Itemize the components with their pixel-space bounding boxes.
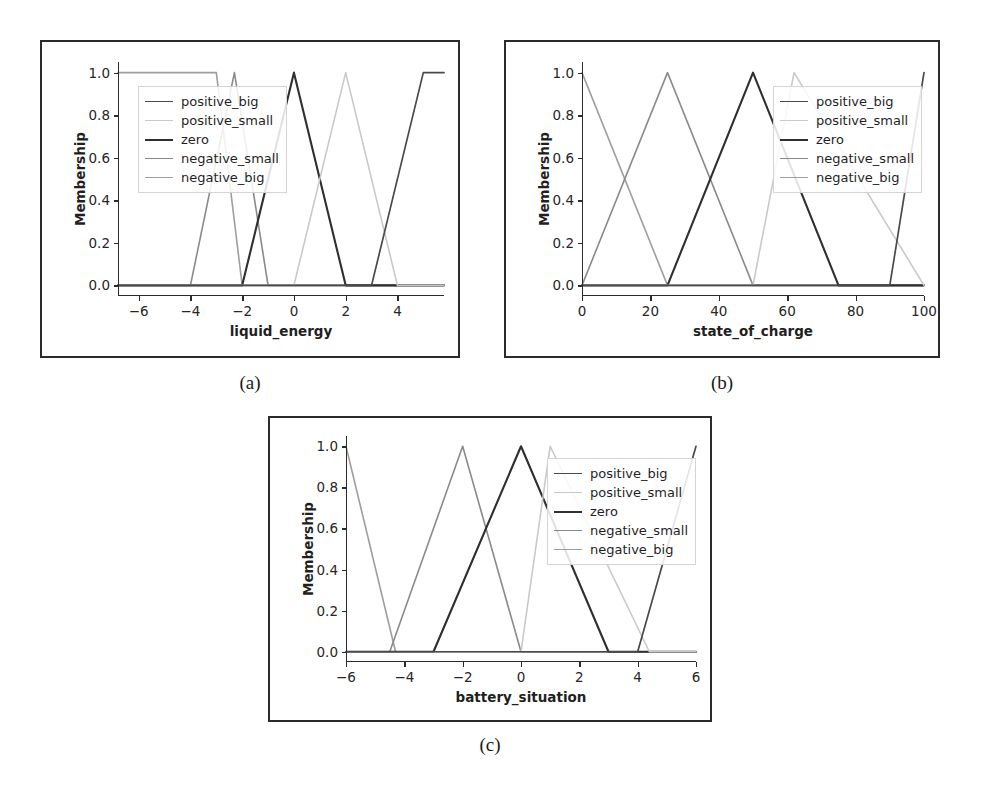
x-axis-label-b: state_of_charge	[582, 323, 924, 339]
legend-item-positive_small[interactable]: positive_small	[780, 111, 914, 130]
x-tick-label-c: −2	[453, 669, 473, 685]
y-tick-c	[342, 652, 347, 653]
legend-item-negative_big[interactable]: negative_big	[554, 540, 688, 559]
y-tick-b	[578, 115, 583, 116]
legend-label-negative_big: negative_big	[590, 542, 673, 557]
legend-label-positive_big: positive_big	[181, 94, 259, 109]
y-tick-label-a: 0.4	[89, 192, 110, 208]
y-tick-a	[114, 158, 119, 159]
legend-swatch-positive_small-icon	[145, 120, 173, 121]
legend-item-negative_big[interactable]: negative_big	[145, 168, 279, 187]
legend-swatch-negative_small-icon	[780, 158, 808, 159]
x-axis-label-c: battery_situation	[346, 689, 696, 705]
x-tick-label-c: 4	[633, 669, 642, 685]
y-axis-label-b: Membership	[536, 132, 552, 226]
y-tick-label-a: 1.0	[89, 65, 110, 81]
legend-swatch-negative_small-icon	[145, 158, 173, 159]
y-tick-a	[114, 243, 119, 244]
x-tick-label-b: 80	[847, 303, 864, 319]
y-tick-c	[342, 446, 347, 447]
y-tick-c	[342, 528, 347, 529]
legend-item-negative_small[interactable]: negative_small	[145, 149, 279, 168]
legend-item-positive_big[interactable]: positive_big	[780, 92, 914, 111]
y-tick-label-c: 0.0	[317, 644, 338, 660]
x-tick-label-b: 0	[578, 303, 587, 319]
legend-item-positive_small[interactable]: positive_small	[145, 111, 279, 130]
x-tick-c	[521, 662, 522, 667]
legend-swatch-positive_big-icon	[145, 101, 173, 102]
y-tick-label-b: 0.0	[553, 277, 574, 293]
y-tick-a	[114, 200, 119, 201]
legend-label-negative_small: negative_small	[181, 151, 279, 166]
y-tick-label-b: 0.8	[553, 107, 574, 123]
x-tick-label-c: 6	[692, 669, 701, 685]
y-axis-label-c: Membership	[300, 502, 316, 596]
legend-label-positive_small: positive_small	[590, 485, 682, 500]
x-tick-b	[582, 296, 583, 301]
y-tick-b	[578, 158, 583, 159]
legend-label-positive_small: positive_small	[181, 113, 273, 128]
y-tick-label-b: 1.0	[553, 65, 574, 81]
legend-label-negative_small: negative_small	[816, 151, 914, 166]
legend-item-positive_big[interactable]: positive_big	[554, 464, 688, 483]
y-tick-b	[578, 73, 583, 74]
legend-label-positive_big: positive_big	[590, 466, 668, 481]
legend-item-negative_small[interactable]: negative_small	[780, 149, 914, 168]
y-tick-c	[342, 611, 347, 612]
x-tick-label-a: −6	[129, 303, 149, 319]
legend-label-negative_big: negative_big	[816, 170, 899, 185]
legend-a: positive_bigpositive_smallzeronegative_s…	[138, 86, 287, 193]
x-tick-b	[787, 296, 788, 301]
legend-label-positive_small: positive_small	[816, 113, 908, 128]
x-tick-b	[650, 296, 651, 301]
x-tick-c	[638, 662, 639, 667]
x-tick-label-b: 20	[642, 303, 659, 319]
x-tick-label-c: −6	[336, 669, 356, 685]
y-axis-label-a: Membership	[72, 132, 88, 226]
x-tick-c	[404, 662, 405, 667]
fuzzy-membership-figure: Membership liquid_energy 0.00.20.40.60.8…	[0, 0, 984, 789]
x-tick-label-b: 60	[779, 303, 796, 319]
legend-item-zero[interactable]: zero	[780, 130, 914, 149]
x-tick-a	[242, 296, 243, 301]
legend-item-positive_small[interactable]: positive_small	[554, 483, 688, 502]
y-tick-c	[342, 487, 347, 488]
legend-label-zero: zero	[816, 132, 844, 147]
x-tick-c	[696, 662, 697, 667]
x-tick-label-c: 0	[517, 669, 526, 685]
x-axis-spine-a	[118, 295, 444, 296]
legend-swatch-zero-icon	[554, 511, 582, 513]
caption-c: (c)	[268, 734, 712, 756]
y-tick-label-c: 0.6	[317, 520, 338, 536]
legend-b: positive_bigpositive_smallzeronegative_s…	[773, 86, 922, 193]
y-tick-label-b: 0.4	[553, 192, 574, 208]
legend-swatch-positive_big-icon	[780, 101, 808, 102]
legend-item-positive_big[interactable]: positive_big	[145, 92, 279, 111]
x-axis-label-a: liquid_energy	[118, 323, 444, 339]
legend-swatch-zero-icon	[145, 139, 173, 141]
y-tick-a	[114, 115, 119, 116]
x-tick-label-c: 2	[575, 669, 584, 685]
legend-label-zero: zero	[590, 504, 618, 519]
subfigure-b: Membership state_of_charge 0.00.20.40.60…	[504, 40, 940, 358]
x-tick-a	[397, 296, 398, 301]
legend-item-negative_small[interactable]: negative_small	[554, 521, 688, 540]
x-tick-label-a: −4	[180, 303, 200, 319]
legend-label-positive_big: positive_big	[816, 94, 894, 109]
y-tick-label-a: 0.6	[89, 150, 110, 166]
y-axis-spine-a	[118, 62, 119, 296]
x-tick-label-c: −4	[394, 669, 414, 685]
legend-item-negative_big[interactable]: negative_big	[780, 168, 914, 187]
x-tick-b	[856, 296, 857, 301]
y-tick-label-c: 0.4	[317, 562, 338, 578]
y-tick-a	[114, 73, 119, 74]
x-tick-a	[294, 296, 295, 301]
legend-item-zero[interactable]: zero	[145, 130, 279, 149]
x-tick-a	[346, 296, 347, 301]
x-tick-label-b: 40	[710, 303, 727, 319]
x-axis-spine-b	[582, 295, 924, 296]
y-tick-label-b: 0.6	[553, 150, 574, 166]
y-tick-b	[578, 285, 583, 286]
legend-item-zero[interactable]: zero	[554, 502, 688, 521]
legend-label-negative_small: negative_small	[590, 523, 688, 538]
